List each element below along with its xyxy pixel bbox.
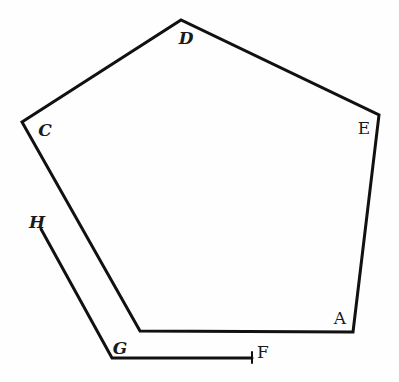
- vertex-label-e: E: [358, 120, 370, 137]
- point-label-f: F: [257, 344, 269, 361]
- point-label-g: G: [113, 340, 128, 357]
- vertex-label-d: D: [179, 30, 194, 47]
- offset-path-hgf: [41, 229, 252, 358]
- pentagon-abcde: [22, 20, 379, 332]
- point-label-h: H: [29, 214, 45, 231]
- vertex-label-c: C: [38, 122, 52, 139]
- vertex-label-a: A: [334, 310, 346, 327]
- diagram-canvas: A C D E F G H: [0, 0, 399, 382]
